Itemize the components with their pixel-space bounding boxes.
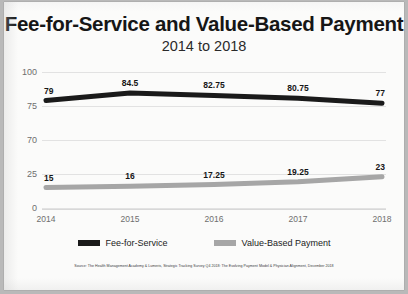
y-tick-label: 0: [32, 203, 37, 213]
data-label: 80.75: [287, 83, 308, 93]
x-tick-label: 2016: [205, 214, 224, 224]
legend-swatch: [214, 240, 236, 246]
data-label: 15: [44, 173, 53, 183]
data-label: 17.25: [203, 170, 224, 180]
chart-subtitle: 2014 to 2018: [4, 38, 404, 54]
legend-item[interactable]: Fee-for-Service: [78, 238, 168, 248]
x-tick-label: 2015: [121, 214, 140, 224]
chart-legend: Fee-for-ServiceValue-Based Payment: [4, 238, 404, 248]
slide-canvas: Fee-for-Service and Value-Based Payment …: [4, 2, 404, 290]
data-label: 82.75: [203, 80, 224, 90]
legend-label: Fee-for-Service: [106, 238, 168, 248]
source-note: Source: The Health Management Academy & …: [4, 264, 404, 268]
x-tick-label: 2018: [373, 214, 392, 224]
data-label: 79: [44, 86, 53, 96]
x-tick-label: 2017: [289, 214, 308, 224]
legend-swatch: [78, 240, 100, 246]
series-lines: [42, 70, 386, 210]
line-fee-for-service: [46, 93, 382, 103]
plot-area: 1007570250 20142015201620172018 7984.582…: [42, 70, 386, 210]
y-tick-label: 100: [22, 67, 37, 77]
legend-item[interactable]: Value-Based Payment: [214, 238, 331, 248]
x-tick-label: 2014: [37, 214, 56, 224]
chart-title: Fee-for-Service and Value-Based Payment: [4, 12, 404, 36]
legend-label: Value-Based Payment: [242, 238, 331, 248]
data-label: 77: [376, 88, 385, 98]
data-label: 16: [125, 171, 134, 181]
data-label: 84.5: [122, 78, 139, 88]
y-tick-label: 70: [27, 135, 37, 145]
y-tick-label: 25: [27, 169, 37, 179]
data-label: 23: [376, 162, 385, 172]
data-label: 19.25: [287, 167, 308, 177]
y-tick-label: 75: [27, 101, 37, 111]
